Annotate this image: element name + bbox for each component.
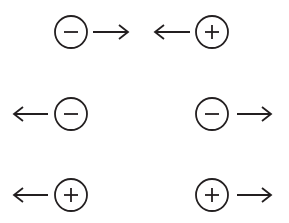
arrow-right-icon bbox=[237, 107, 271, 121]
charge-diagram bbox=[0, 0, 289, 223]
diagram-rows bbox=[14, 16, 271, 211]
positive-charge-icon bbox=[196, 16, 228, 48]
row-3 bbox=[14, 179, 271, 211]
arrow-left-icon bbox=[14, 188, 48, 202]
negative-charge-icon bbox=[196, 98, 228, 130]
positive-charge-icon bbox=[55, 179, 87, 211]
negative-charge-icon bbox=[55, 98, 87, 130]
negative-charge-icon bbox=[55, 16, 87, 48]
row-2 bbox=[14, 98, 271, 130]
arrow-left-icon bbox=[14, 107, 48, 121]
arrow-left-icon bbox=[155, 25, 190, 39]
arrow-right-icon bbox=[93, 25, 128, 39]
positive-charge-icon bbox=[196, 179, 228, 211]
row-1 bbox=[55, 16, 228, 48]
arrow-right-icon bbox=[237, 188, 271, 202]
